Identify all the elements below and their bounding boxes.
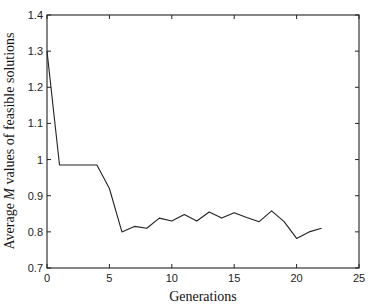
x-tick-label: 25 — [353, 272, 365, 284]
x-tick-label: 5 — [106, 272, 112, 284]
x-tick-label: 10 — [166, 272, 178, 284]
y-tick-label: 0.9 — [28, 190, 43, 202]
line-chart: 05101520250.70.80.911.11.21.31.4 Generat… — [0, 0, 375, 307]
y-tick-label: 1.2 — [28, 81, 43, 93]
y-tick-label: 0.8 — [28, 226, 43, 238]
plot-frame — [47, 15, 359, 268]
axes-box — [47, 15, 359, 268]
y-axis-title-suffix: values of feasible solutions — [2, 32, 17, 188]
y-tick-label: 1 — [37, 154, 43, 166]
y-tick-label: 1.4 — [28, 9, 43, 21]
y-axis-title: Average M values of feasible solutions — [2, 32, 17, 249]
tick-labels: 05101520250.70.80.911.11.21.31.4 — [28, 9, 365, 284]
x-axis-title: Generations — [169, 289, 237, 304]
x-tick-label: 0 — [44, 272, 50, 284]
y-tick-label: 1.3 — [28, 45, 43, 57]
data-line — [47, 51, 322, 238]
y-tick-label: 0.7 — [28, 262, 43, 274]
x-tick-label: 20 — [290, 272, 302, 284]
x-tick-label: 15 — [228, 272, 240, 284]
axis-ticks — [47, 15, 359, 268]
y-tick-label: 1.1 — [28, 117, 43, 129]
y-axis-title-prefix: Average — [2, 200, 17, 250]
